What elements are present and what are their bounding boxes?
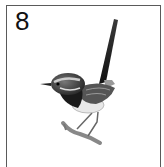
- bird-illustration: [0, 0, 164, 167]
